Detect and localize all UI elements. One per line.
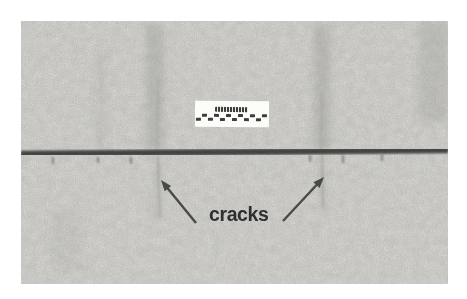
scale-checker-segment [244, 118, 249, 121]
bottom-left-mottle [51, 211, 81, 271]
scale-checker-segment [226, 114, 231, 117]
faint-band-midleft [96, 51, 106, 146]
scale-checker-segment [214, 114, 219, 117]
scale-checker-segment [202, 114, 207, 117]
faint-vertical-band-right [314, 26, 330, 151]
scale-ruler-strip [215, 107, 248, 112]
scale-checker-segment [196, 117, 201, 120]
figure-page: cracks [0, 0, 467, 299]
scale-checker-segment [250, 114, 255, 117]
scale-checker-segment [262, 114, 267, 117]
top-right-shade [419, 21, 448, 121]
scale-bar-card [195, 101, 269, 128]
scale-checker [196, 114, 268, 124]
scale-checker-segment [256, 118, 261, 121]
scale-checker-segment [232, 117, 237, 120]
cracks-label: cracks [209, 205, 268, 225]
scale-checker-segment [208, 117, 213, 120]
faint-vertical-band-left [146, 26, 164, 151]
scale-checker-segment [220, 117, 225, 120]
scale-checker-segment [238, 114, 243, 117]
photo-texture [21, 21, 448, 284]
concrete-crack-photo [21, 21, 448, 284]
